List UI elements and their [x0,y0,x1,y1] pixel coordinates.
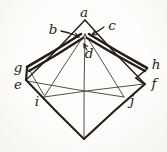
point-e-label: e [14,76,22,92]
flap-right-inner-fold [87,38,145,71]
point-b-label: b [49,21,58,37]
point-f-label: f [151,75,159,91]
point-labels: abcdgehfij [14,4,161,109]
point-c-label: c [108,17,116,33]
edge-e-b [26,80,84,139]
crease-and-edge-lines [26,20,147,139]
paper-background: abcdgehfij [0,0,167,152]
point-a-label: a [80,4,88,20]
flap-left-outer-fold [27,34,81,67]
flap-right-outer-fold [89,34,147,68]
point-g-label: g [14,59,23,75]
crease-e-j [27,81,124,97]
point-h-label: h [152,56,161,72]
flap-left-inner-fold [29,38,83,71]
point-i-label: i [35,93,39,109]
flap-left-corner [26,68,27,80]
fold-diagram-svg: abcdgehfij [0,0,167,152]
point-d-label: d [85,45,94,61]
